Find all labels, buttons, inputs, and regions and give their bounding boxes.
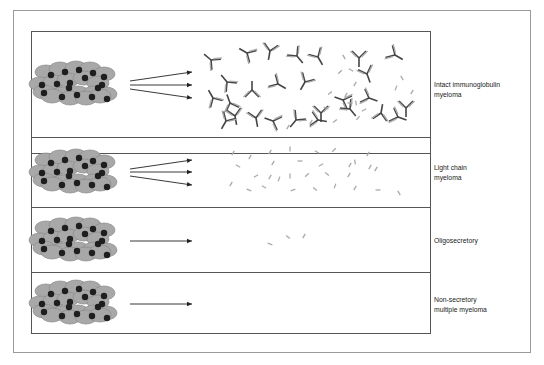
light-chain-icon bbox=[356, 116, 359, 120]
immunoglobulin-icon bbox=[215, 70, 238, 93]
arrow-icon bbox=[130, 239, 192, 243]
arrow-icon bbox=[130, 83, 192, 87]
label-line: Oligosecretory bbox=[434, 236, 478, 246]
row-label-light-chain: Light chain myeloma bbox=[434, 163, 467, 183]
light-chain-icon bbox=[356, 101, 357, 106]
label-line: Non-secretory bbox=[434, 295, 487, 305]
row-label-oligosecretory: Oligosecretory bbox=[434, 236, 478, 246]
light-chain-icon bbox=[230, 182, 233, 186]
light-chain-icon bbox=[249, 155, 252, 159]
immunoglobulin-icon bbox=[357, 65, 378, 86]
label-line: myeloma bbox=[434, 90, 500, 100]
immunoglobulin-icon bbox=[385, 44, 407, 67]
immunoglobulin-icon bbox=[286, 45, 309, 68]
arrow-icon bbox=[130, 71, 192, 81]
myeloma-secretion-diagram: Intact immunoglobulin myeloma Light chai… bbox=[0, 0, 544, 365]
light-chain-icon bbox=[355, 160, 356, 165]
immunoglobulin-icon bbox=[351, 51, 368, 67]
light-chain-icon bbox=[328, 91, 332, 94]
arrow-icon bbox=[130, 170, 192, 174]
light-chain-icon bbox=[375, 167, 378, 171]
immunoglobulin-icon bbox=[199, 48, 222, 71]
label-line: myeloma bbox=[434, 173, 467, 183]
light-chain-icon bbox=[411, 90, 414, 94]
light-chain-cluster bbox=[230, 55, 414, 245]
immunoglobulin-icon bbox=[225, 108, 245, 127]
light-chain-icon bbox=[395, 86, 397, 91]
light-chain-icon bbox=[303, 234, 306, 238]
row-label-intact: Intact immunoglobulin myeloma bbox=[434, 80, 500, 100]
light-chain-icon bbox=[286, 235, 290, 238]
light-chain-icon bbox=[334, 184, 336, 189]
light-chain-icon bbox=[354, 82, 357, 86]
light-chain-icon bbox=[315, 151, 319, 154]
light-chain-icon bbox=[313, 187, 317, 190]
arrow-icon bbox=[130, 159, 192, 169]
plasma-cell-cluster bbox=[29, 61, 117, 105]
light-chain-icon bbox=[262, 186, 266, 189]
label-line: Intact immunoglobulin bbox=[434, 80, 500, 90]
immunoglobulin-icon bbox=[307, 47, 330, 69]
arrow-icon bbox=[130, 176, 192, 186]
light-chain-icon bbox=[325, 172, 329, 175]
immunoglobulin-icon bbox=[293, 72, 316, 94]
label-line: multiple myeloma bbox=[434, 305, 487, 315]
light-chain-icon bbox=[362, 109, 366, 112]
immunoglobulin-icon bbox=[360, 88, 381, 109]
immunoglobulin-icon bbox=[398, 101, 415, 117]
light-chain-icon bbox=[343, 55, 346, 59]
light-chain-icon bbox=[291, 189, 296, 191]
light-chain-icon bbox=[247, 189, 252, 191]
immunoglobulin-icon bbox=[371, 103, 391, 122]
immunoglobulin-icon bbox=[201, 86, 224, 108]
light-chain-icon bbox=[254, 175, 258, 178]
immunoglobulin-icon bbox=[268, 73, 290, 96]
immunoglobulin-icon bbox=[244, 81, 261, 97]
light-chain-icon bbox=[369, 165, 372, 169]
light-chain-icon bbox=[348, 173, 351, 177]
light-chain-icon bbox=[398, 191, 401, 195]
light-chain-icon bbox=[268, 243, 273, 245]
light-chain-icon bbox=[236, 165, 240, 168]
immunoglobulin-icon bbox=[235, 41, 257, 64]
light-chain-icon bbox=[354, 186, 357, 190]
immunoglobulin-icon bbox=[262, 110, 283, 131]
light-chain-icon bbox=[287, 125, 290, 129]
light-chain-icon bbox=[272, 161, 275, 165]
row-label-non-secretory: Non-secretory multiple myeloma bbox=[434, 295, 487, 315]
light-chain-icon bbox=[401, 76, 404, 80]
plasma-cell-cluster bbox=[29, 280, 117, 324]
plasma-cell-cluster bbox=[29, 149, 117, 193]
light-chain-icon bbox=[332, 148, 336, 152]
plasma-cell-cluster bbox=[29, 217, 117, 261]
immunoglobulin-icon bbox=[246, 110, 266, 129]
light-chain-icon bbox=[278, 177, 280, 182]
immunoglobulin-cluster bbox=[199, 41, 415, 133]
light-chain-icon bbox=[349, 163, 352, 167]
light-chain-icon bbox=[319, 164, 323, 167]
arrow-icon bbox=[130, 302, 192, 306]
arrow-icon bbox=[130, 89, 192, 99]
light-chain-icon bbox=[305, 173, 309, 177]
light-chain-icon bbox=[269, 175, 272, 179]
immunoglobulin-icon bbox=[260, 43, 280, 62]
light-chain-icon bbox=[349, 69, 353, 72]
light-chain-icon bbox=[333, 119, 337, 122]
label-line: Light chain bbox=[434, 163, 467, 173]
light-chain-icon bbox=[338, 70, 342, 74]
immunoglobulin-icon bbox=[219, 92, 240, 113]
